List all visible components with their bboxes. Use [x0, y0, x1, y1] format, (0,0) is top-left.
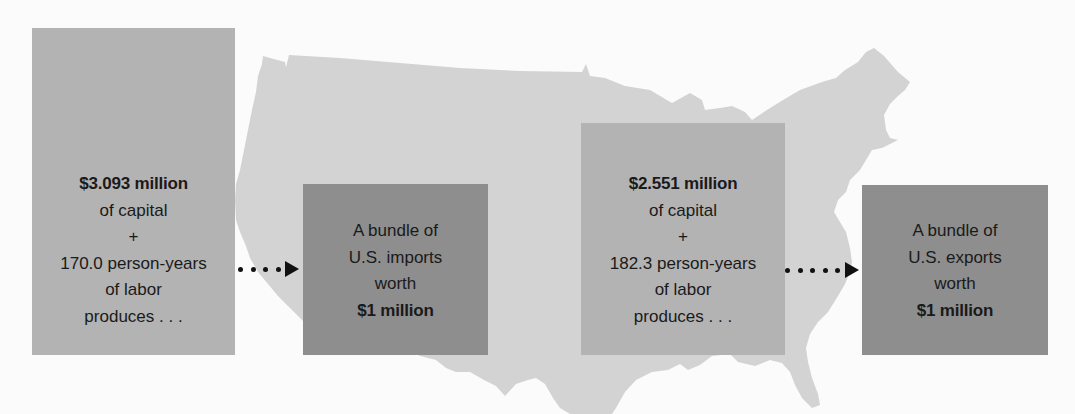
imports-bundle-line2: U.S. imports: [349, 245, 443, 272]
arrowhead-icon: [285, 261, 299, 277]
imports-bundle-line1: A bundle of: [353, 218, 438, 245]
exports-bundle-line2: U.S. exports: [908, 245, 1002, 272]
arrow-dot: [785, 268, 790, 273]
imports-plus-sign: +: [129, 224, 139, 251]
imports-bundle-value: $1 million: [357, 298, 433, 325]
exports-capital-label: of capital: [649, 198, 717, 225]
arrow-dot: [835, 268, 840, 273]
exports-labor-amount: 182.3 person-years: [610, 251, 756, 278]
imports-capital-label: of capital: [99, 198, 167, 225]
exports-bundle-box: A bundle of U.S. exports worth $1 millio…: [862, 185, 1048, 355]
arrow-dot: [276, 267, 281, 272]
exports-capital-amount: $2.551 million: [629, 171, 738, 198]
imports-dotted-arrow-icon: [238, 259, 299, 279]
exports-labor-label: of labor: [655, 277, 712, 304]
arrowhead-icon: [845, 262, 859, 278]
exports-dotted-arrow-icon: [785, 260, 859, 280]
exports-inputs-box: $2.551 million of capital + 182.3 person…: [581, 123, 785, 355]
arrow-dot: [263, 267, 268, 272]
exports-plus-sign: +: [678, 224, 688, 251]
exports-bundle-line1: A bundle of: [912, 218, 997, 245]
imports-inputs-box: $3.093 million of capital + 170.0 person…: [32, 28, 235, 355]
imports-produces-text: produces . . .: [84, 304, 182, 331]
arrow-dot: [810, 268, 815, 273]
arrow-dot: [251, 267, 256, 272]
arrow-dot: [823, 268, 828, 273]
imports-capital-amount: $3.093 million: [79, 171, 188, 198]
exports-produces-text: produces . . .: [634, 304, 732, 331]
imports-labor-amount: 170.0 person-years: [60, 251, 206, 278]
arrow-dot: [238, 267, 243, 272]
arrow-dot: [798, 268, 803, 273]
exports-bundle-value: $1 million: [917, 298, 993, 325]
imports-bundle-box: A bundle of U.S. imports worth $1 millio…: [303, 184, 488, 355]
imports-bundle-line3: worth: [375, 271, 417, 298]
imports-labor-label: of labor: [105, 277, 162, 304]
exports-bundle-line3: worth: [934, 271, 976, 298]
